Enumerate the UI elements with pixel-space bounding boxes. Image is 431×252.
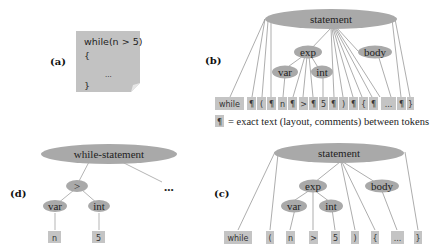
token-label: ... — [394, 234, 402, 243]
panel-a: (a) while(n > 5) { ... } — [50, 31, 142, 92]
token-label: ¶ — [249, 100, 254, 109]
code-line-2: { — [84, 50, 90, 61]
node-exp-label: exp — [305, 180, 321, 192]
token-label: ( — [268, 234, 271, 243]
token-label: n — [288, 234, 293, 243]
node-var-label: var — [287, 200, 301, 212]
token-label: ¶ — [331, 100, 336, 109]
token-label: > — [310, 234, 317, 243]
leaf-label: n — [52, 234, 57, 243]
panel-d-label: (d) — [10, 188, 26, 199]
panel-a-label: (a) — [50, 56, 66, 67]
token-label: ¶ — [290, 100, 295, 109]
token-label: ¶ — [399, 100, 404, 109]
token-label: 5 — [333, 234, 338, 243]
token-label: while — [228, 234, 249, 243]
node-statement-label: statement — [318, 147, 360, 159]
leaf-label: 5 — [96, 234, 101, 243]
panel-c: (c) statement exp var int body — [214, 143, 422, 244]
panel-b: (b) statement — [205, 9, 429, 128]
node-body-label: body — [371, 180, 394, 192]
token-label: ) — [342, 100, 345, 109]
token-label: while — [219, 100, 240, 109]
parse-tree-figure: (a) while(n > 5) { ... } (b) — [0, 0, 431, 252]
token-label: { — [361, 100, 366, 109]
node-statement-label: statement — [310, 13, 352, 25]
token-label: } — [408, 100, 413, 109]
token-label: { — [372, 234, 377, 243]
node-int-label: int — [93, 200, 105, 212]
token-label: ) — [353, 234, 356, 243]
panel-d: (d) while-statement > ... var int n 5 — [10, 144, 177, 243]
token-label: } — [415, 234, 420, 243]
token-label: ¶ — [311, 100, 316, 109]
node-gt-label: > — [74, 180, 80, 192]
node-var-label: var — [278, 66, 292, 78]
token-label: ¶ — [351, 100, 356, 109]
code-line-4: } — [84, 80, 90, 91]
panel-b-label: (b) — [205, 55, 221, 66]
token-label: ( — [260, 100, 263, 109]
legend-text: = exact text (layout, comments) between … — [228, 116, 429, 128]
token-label: > — [300, 100, 307, 109]
ellipsis: ... — [164, 179, 174, 194]
panel-b-token-row: while ¶ ( ¶ n ¶ > ¶ 5 ¶ ) ¶ { — [215, 97, 414, 110]
panel-c-token-row: while ( n > 5 ) { ... } — [224, 231, 422, 244]
token-label: ¶ — [371, 100, 376, 109]
code-line-3: ... — [105, 71, 112, 79]
panel-c-label: (c) — [214, 188, 230, 199]
node-body-label: body — [364, 46, 387, 58]
node-int-label: int — [316, 66, 328, 78]
node-exp-label: exp — [300, 46, 316, 58]
panel-b-edges — [230, 19, 410, 97]
token-label: n — [280, 100, 285, 109]
legend-symbol: ¶ — [217, 118, 222, 127]
node-while-statement-label: while-statement — [74, 148, 144, 160]
token-label: ¶ — [269, 100, 274, 109]
token-label: ... — [385, 100, 393, 109]
node-int-label: int — [325, 200, 337, 212]
token-label: 5 — [321, 100, 326, 109]
code-line-1: while(n > 5) — [84, 36, 142, 47]
legend: ¶ = exact text (layout, comments) betwee… — [215, 115, 429, 128]
node-var-label: var — [48, 200, 62, 212]
